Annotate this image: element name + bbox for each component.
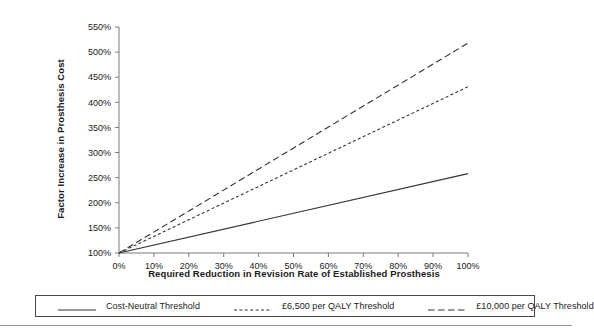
y-tick-label: 550% — [88, 22, 111, 32]
legend-line-swatch — [58, 301, 96, 311]
chart-svg: 100%150%200%250%300%350%400%450%500%550%… — [0, 0, 572, 288]
y-axis-ticks: 100%150%200%250%300%350%400%450%500%550% — [88, 22, 119, 258]
y-tick-label: 400% — [88, 98, 111, 108]
series-line — [119, 87, 468, 253]
x-axis-label: Required Reduction in Revision Rate of E… — [119, 268, 469, 279]
y-axis-label: Factor Increase in Prosthesis Cost — [55, 59, 66, 219]
legend-line-swatch — [234, 301, 272, 311]
y-tick-label: 100% — [88, 248, 111, 258]
y-tick-label: 150% — [88, 223, 111, 233]
legend-label: £10,000 per QALY Threshold — [476, 301, 593, 311]
chart-legend: Cost-Neutral Threshold£6,500 per QALY Th… — [35, 295, 535, 317]
plot-area: 100%150%200%250%300%350%400%450%500%550%… — [0, 0, 572, 288]
y-tick-label: 200% — [88, 198, 111, 208]
y-tick-label: 450% — [88, 72, 111, 82]
series-line — [119, 43, 468, 253]
bottom-divider — [0, 325, 572, 326]
series-line — [119, 174, 468, 253]
y-tick-label: 500% — [88, 47, 111, 57]
legend-item[interactable]: £6,500 per QALY Threshold — [234, 301, 394, 311]
y-axis-label-wrap: Factor Increase in Prosthesis Cost — [52, 28, 68, 250]
legend-item[interactable]: Cost-Neutral Threshold — [58, 301, 200, 311]
legend-line-swatch — [428, 301, 466, 311]
legend-label: Cost-Neutral Threshold — [106, 301, 200, 311]
data-series-group — [119, 43, 468, 253]
legend-label: £6,500 per QALY Threshold — [282, 301, 394, 311]
y-tick-label: 250% — [88, 173, 111, 183]
legend-item[interactable]: £10,000 per QALY Threshold — [428, 301, 593, 311]
y-tick-label: 350% — [88, 123, 111, 133]
y-tick-label: 300% — [88, 148, 111, 158]
